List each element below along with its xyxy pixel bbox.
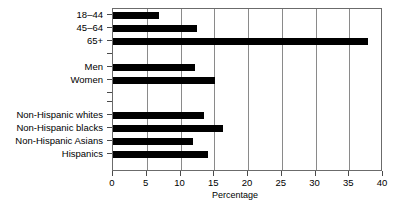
x-axis-tick-20 — [247, 171, 248, 176]
bar-65-plus — [113, 38, 368, 45]
x-axis-ticklabel-20: 20 — [232, 177, 262, 188]
bar-non-hispanic-blacks — [113, 125, 223, 132]
bar-women — [113, 77, 215, 84]
x-axis-tick-5 — [146, 171, 147, 176]
bar-non-hispanic-asians — [113, 138, 193, 145]
y-axis-label-men: Men — [0, 62, 103, 72]
x-axis-ticklabel-0: 0 — [97, 177, 127, 188]
y-axis-label-non-hispanic-asians: Non-Hispanic Asians — [0, 136, 103, 146]
y-axis-label-65-plus: 65+ — [0, 36, 103, 46]
x-axis-ticklabel-30: 30 — [300, 177, 330, 188]
gridline-15 — [214, 9, 215, 170]
gridline-30 — [316, 9, 317, 170]
gridline-5 — [147, 9, 148, 170]
x-axis-tick-10 — [180, 171, 181, 176]
bar-men — [113, 64, 195, 71]
x-axis-title-text: Percentage — [212, 190, 258, 200]
y-axis-label-non-hispanic-whites: Non-Hispanic whites — [0, 110, 103, 120]
y-axis-label-non-hispanic-blacks: Non-Hispanic blacks — [0, 123, 103, 133]
x-axis-tick-0 — [112, 171, 113, 176]
y-axis-label-18-44: 18–44 — [0, 10, 103, 20]
x-axis-ticklabel-40: 40 — [367, 177, 397, 188]
bar-chart: 18–44 45–64 65+ Men Women Non-Hispanic w… — [0, 0, 406, 204]
x-axis-tick-40 — [382, 171, 383, 176]
y-axis-label-45-64: 45–64 — [0, 23, 103, 33]
bar-non-hispanic-whites — [113, 112, 204, 119]
x-axis-ticklabel-5: 5 — [131, 177, 161, 188]
x-axis-ticklabel-25: 25 — [266, 177, 296, 188]
x-axis-ticklabel-10: 10 — [165, 177, 195, 188]
y-axis-label-women: Women — [0, 75, 103, 85]
y-axis-label-hispanics: Hispanics — [0, 149, 103, 159]
gridline-10 — [181, 9, 182, 170]
bar-hispanics — [113, 151, 208, 158]
x-axis-tick-30 — [315, 171, 316, 176]
x-axis-tick-25 — [281, 171, 282, 176]
x-axis-ticklabel-35: 35 — [333, 177, 363, 188]
x-axis-title: Percentage — [0, 190, 406, 200]
bar-18-44 — [113, 12, 159, 19]
x-axis-tick-35 — [348, 171, 349, 176]
plot-area — [112, 8, 382, 171]
x-axis-tick-15 — [213, 171, 214, 176]
x-axis-ticklabel-15: 15 — [198, 177, 228, 188]
gridline-20 — [248, 9, 249, 170]
gridline-35 — [349, 9, 350, 170]
bar-45-64 — [113, 25, 197, 32]
gridline-25 — [282, 9, 283, 170]
